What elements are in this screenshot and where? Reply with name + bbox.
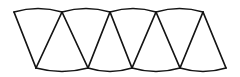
figure-canvas [0,0,240,77]
triangular-strip-diagram [0,0,240,77]
